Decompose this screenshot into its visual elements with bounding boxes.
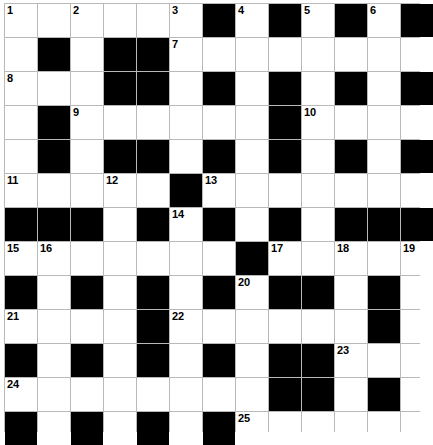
open-square[interactable] bbox=[104, 344, 136, 377]
open-square[interactable] bbox=[368, 242, 400, 275]
open-square[interactable]: 4 bbox=[236, 4, 268, 37]
open-square[interactable]: 12 bbox=[104, 174, 136, 207]
open-square[interactable]: 15 bbox=[5, 242, 37, 275]
open-square[interactable]: 7 bbox=[170, 38, 202, 71]
open-square[interactable] bbox=[104, 310, 136, 343]
open-square[interactable] bbox=[401, 412, 433, 445]
open-square[interactable] bbox=[170, 106, 202, 139]
open-square[interactable]: 17 bbox=[269, 242, 301, 275]
open-square[interactable] bbox=[170, 344, 202, 377]
open-square[interactable] bbox=[401, 106, 433, 139]
open-square[interactable] bbox=[203, 106, 235, 139]
open-square[interactable]: 5 bbox=[302, 4, 334, 37]
open-square[interactable] bbox=[38, 4, 70, 37]
open-square[interactable] bbox=[335, 310, 367, 343]
open-square[interactable] bbox=[5, 140, 37, 173]
open-square[interactable] bbox=[335, 174, 367, 207]
open-square[interactable] bbox=[71, 378, 103, 411]
open-square[interactable]: 25 bbox=[236, 412, 268, 445]
open-square[interactable] bbox=[269, 310, 301, 343]
open-square[interactable] bbox=[236, 38, 268, 71]
open-square[interactable] bbox=[236, 344, 268, 377]
open-square[interactable] bbox=[71, 310, 103, 343]
open-square[interactable]: 23 bbox=[335, 344, 367, 377]
open-square[interactable] bbox=[302, 72, 334, 105]
open-square[interactable] bbox=[335, 378, 367, 411]
open-square[interactable]: 1 bbox=[5, 4, 37, 37]
open-square[interactable] bbox=[203, 378, 235, 411]
open-square[interactable] bbox=[5, 106, 37, 139]
open-square[interactable] bbox=[71, 38, 103, 71]
open-square[interactable] bbox=[71, 72, 103, 105]
open-square[interactable]: 8 bbox=[5, 72, 37, 105]
open-square[interactable] bbox=[302, 412, 334, 445]
open-square[interactable]: 19 bbox=[401, 242, 433, 275]
open-square[interactable] bbox=[38, 412, 70, 445]
open-square[interactable] bbox=[302, 242, 334, 275]
open-square[interactable] bbox=[236, 208, 268, 241]
open-square[interactable] bbox=[170, 276, 202, 309]
open-square[interactable]: 9 bbox=[71, 106, 103, 139]
open-square[interactable]: 11 bbox=[5, 174, 37, 207]
open-square[interactable] bbox=[236, 140, 268, 173]
open-square[interactable] bbox=[236, 72, 268, 105]
open-square[interactable] bbox=[236, 106, 268, 139]
open-square[interactable] bbox=[368, 140, 400, 173]
open-square[interactable] bbox=[170, 242, 202, 275]
open-square[interactable]: 13 bbox=[203, 174, 235, 207]
open-square[interactable] bbox=[104, 378, 136, 411]
open-square[interactable] bbox=[269, 412, 301, 445]
open-square[interactable] bbox=[269, 174, 301, 207]
open-square[interactable] bbox=[137, 378, 169, 411]
open-square[interactable]: 3 bbox=[170, 4, 202, 37]
open-square[interactable] bbox=[137, 174, 169, 207]
open-square[interactable] bbox=[38, 344, 70, 377]
open-square[interactable] bbox=[38, 310, 70, 343]
open-square[interactable] bbox=[269, 38, 301, 71]
open-square[interactable] bbox=[368, 72, 400, 105]
open-square[interactable] bbox=[401, 310, 433, 343]
open-square[interactable] bbox=[335, 106, 367, 139]
open-square[interactable] bbox=[368, 106, 400, 139]
open-square[interactable] bbox=[302, 38, 334, 71]
open-square[interactable] bbox=[170, 412, 202, 445]
open-square[interactable] bbox=[401, 276, 433, 309]
open-square[interactable] bbox=[335, 276, 367, 309]
open-square[interactable] bbox=[104, 276, 136, 309]
open-square[interactable] bbox=[368, 38, 400, 71]
open-square[interactable] bbox=[302, 140, 334, 173]
open-square[interactable] bbox=[368, 344, 400, 377]
open-square[interactable] bbox=[236, 310, 268, 343]
open-square[interactable]: 21 bbox=[5, 310, 37, 343]
open-square[interactable] bbox=[137, 242, 169, 275]
open-square[interactable] bbox=[368, 412, 400, 445]
open-square[interactable] bbox=[137, 106, 169, 139]
open-square[interactable] bbox=[236, 378, 268, 411]
open-square[interactable] bbox=[38, 378, 70, 411]
open-square[interactable] bbox=[236, 174, 268, 207]
open-square[interactable] bbox=[71, 174, 103, 207]
open-square[interactable] bbox=[104, 242, 136, 275]
open-square[interactable]: 14 bbox=[170, 208, 202, 241]
open-square[interactable] bbox=[170, 72, 202, 105]
open-square[interactable] bbox=[203, 242, 235, 275]
open-square[interactable] bbox=[38, 174, 70, 207]
open-square[interactable] bbox=[71, 140, 103, 173]
open-square[interactable] bbox=[71, 242, 103, 275]
open-square[interactable] bbox=[38, 72, 70, 105]
open-square[interactable] bbox=[335, 38, 367, 71]
open-square[interactable] bbox=[401, 174, 433, 207]
open-square[interactable] bbox=[170, 378, 202, 411]
open-square[interactable] bbox=[368, 174, 400, 207]
open-square[interactable] bbox=[401, 378, 433, 411]
open-square[interactable] bbox=[104, 4, 136, 37]
open-square[interactable] bbox=[104, 412, 136, 445]
open-square[interactable] bbox=[170, 140, 202, 173]
open-square[interactable]: 10 bbox=[302, 106, 334, 139]
open-square[interactable]: 18 bbox=[335, 242, 367, 275]
open-square[interactable] bbox=[5, 38, 37, 71]
open-square[interactable] bbox=[104, 106, 136, 139]
open-square[interactable] bbox=[335, 412, 367, 445]
crossword-grid[interactable]: 1234567891011121314151617181920212223242… bbox=[4, 3, 420, 432]
open-square[interactable] bbox=[137, 4, 169, 37]
